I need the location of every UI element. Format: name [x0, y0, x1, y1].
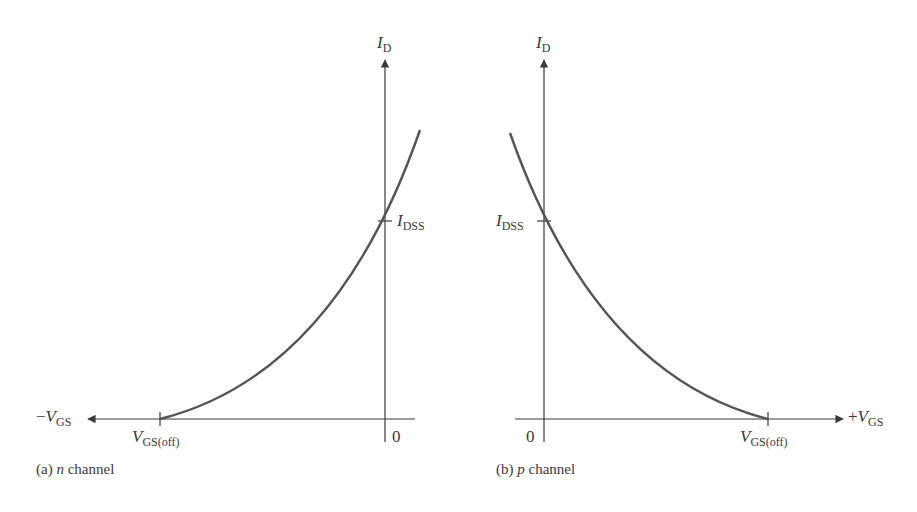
caption-suffix: channel — [525, 461, 575, 477]
caption-type: p — [517, 461, 525, 477]
sign: + — [848, 407, 858, 426]
vgsoff-label-b: VGS(off) — [740, 428, 788, 445]
transfer-curve-b — [510, 133, 768, 419]
id-subscript: D — [542, 41, 551, 55]
caption-suffix: channel — [64, 461, 114, 477]
transfer-curve-a — [160, 130, 420, 419]
idss-label-a: IDSS — [397, 212, 425, 229]
vgsoff-symbol: V — [740, 427, 750, 446]
x-axis-label-a: −VGS — [36, 408, 71, 425]
id-symbol: I — [377, 33, 383, 52]
vgsoff-label-a: VGS(off) — [132, 428, 180, 445]
idss-symbol: I — [496, 211, 502, 230]
origin-label-b: 0 — [526, 428, 535, 445]
x-axis-label-b: +VGS — [848, 408, 883, 425]
panel-a-n-channel — [88, 60, 420, 442]
sign: − — [36, 407, 46, 426]
y-axis-label-a: ID — [377, 34, 391, 51]
caption-prefix: (b) — [496, 461, 517, 477]
caption-a: (a) n channel — [36, 461, 114, 478]
vgs-symbol: V — [858, 407, 868, 426]
vgs-subscript: GS — [56, 415, 71, 429]
caption-type: n — [56, 461, 64, 477]
y-axis-label-b: ID — [536, 34, 550, 51]
id-symbol: I — [536, 33, 542, 52]
idss-label-b: IDSS — [496, 212, 524, 229]
origin-label-a: 0 — [392, 428, 401, 445]
idss-subscript: DSS — [403, 219, 425, 233]
vgsoff-subscript: GS(off) — [142, 435, 179, 449]
vgsoff-subscript: GS(off) — [750, 435, 787, 449]
idss-subscript: DSS — [502, 219, 524, 233]
vgs-subscript: GS — [868, 415, 883, 429]
id-subscript: D — [383, 41, 392, 55]
vgsoff-symbol: V — [132, 427, 142, 446]
vgs-symbol: V — [46, 407, 56, 426]
idss-symbol: I — [397, 211, 403, 230]
caption-b: (b) p channel — [496, 461, 575, 478]
caption-prefix: (a) — [36, 461, 56, 477]
panel-b-p-channel — [510, 60, 843, 442]
